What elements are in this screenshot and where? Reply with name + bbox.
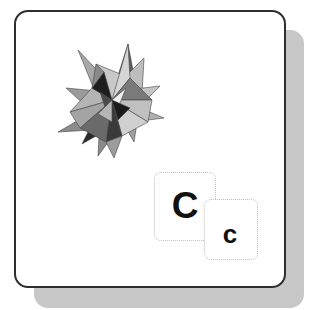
lowercase-c-tile: c bbox=[204, 199, 258, 260]
stellated-dodecahedron-icon bbox=[56, 42, 166, 158]
uppercase-c-glyph: C bbox=[172, 185, 199, 227]
lowercase-c-glyph: c bbox=[223, 219, 237, 250]
